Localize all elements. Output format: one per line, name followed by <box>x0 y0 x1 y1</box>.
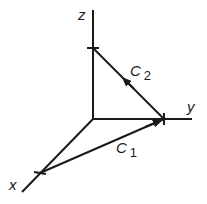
path-c1-arrow-icon <box>145 121 160 127</box>
path-c2-arrow-icon <box>124 79 134 89</box>
path-c2-label: C2 <box>130 62 151 83</box>
x-axis-label: x <box>8 176 17 193</box>
diagram-canvas: z y x C2 C1 <box>0 0 207 204</box>
path-c1-label: C1 <box>116 139 137 160</box>
z-axis-label: z <box>77 6 86 23</box>
y-axis-label: y <box>186 98 196 115</box>
